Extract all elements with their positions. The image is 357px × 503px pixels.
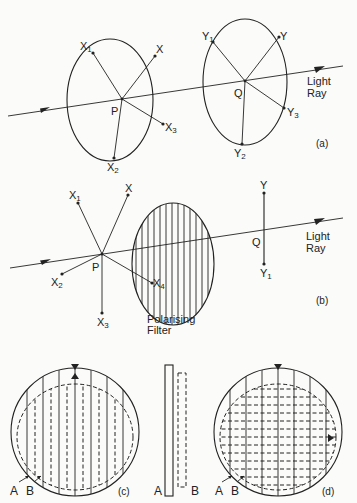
light-ray-label-line2: Ray (307, 87, 327, 99)
wavefront-ellipse-p (67, 39, 153, 161)
light-ray-label-line2-b: Ray (306, 242, 326, 254)
panel-label-c: (c) (118, 486, 130, 497)
filter-a-lines (27, 360, 123, 500)
label-x2: X2 (107, 161, 119, 175)
vibration-vectors-p-b (60, 193, 153, 314)
light-ray-label-line1-b: Light (306, 230, 330, 242)
label-q-b: Q (252, 236, 261, 248)
polarisation-diagram: P Q X X1 X2 X3 Y Y1 Y2 Y3 Light Ray (a) (0, 0, 357, 503)
panel-c: A B (c) (10, 360, 139, 500)
side-marker-b-label: B (191, 484, 199, 498)
label-x1: X1 (80, 40, 92, 54)
ray-arrow-icon (314, 66, 325, 73)
label-y1-b: Y1 (260, 267, 272, 281)
orientation-marker-a-icon (274, 364, 282, 370)
filter-a-edge (165, 365, 173, 496)
filter-a-lines-d (230, 360, 326, 500)
panel-d: A B (d) (214, 360, 342, 500)
label-x2-b: X2 (51, 276, 63, 290)
vibration-vectors-p (91, 51, 164, 159)
label-y: Y (280, 30, 288, 42)
label-y1: Y1 (202, 30, 214, 44)
orientation-marker-b-icon (328, 434, 334, 442)
label-x3-b: X3 (97, 316, 109, 330)
panel-side-view: A B (154, 365, 199, 498)
label-x3: X3 (165, 121, 177, 135)
label-x-b: X (125, 182, 133, 194)
label-y2: Y2 (234, 147, 246, 161)
marker-b-label-d: B (231, 484, 239, 498)
label-y3: Y3 (287, 106, 299, 120)
panel-label-d: (d) (322, 486, 334, 497)
label-y-b: Y (260, 179, 268, 191)
side-marker-a-label: A (154, 484, 162, 498)
label-q: Q (234, 87, 243, 99)
light-ray-b (10, 218, 343, 268)
light-ray-label-line1: Light (307, 75, 331, 87)
vibration-vector-q-b (262, 191, 265, 265)
orientation-marker-a-icon (71, 364, 79, 370)
polarising-filter (132, 200, 214, 330)
marker-a-label: A (10, 484, 18, 498)
panel-label-a: (a) (316, 138, 328, 149)
label-x1-b: X1 (69, 189, 81, 203)
vibration-vectors-q (211, 35, 285, 145)
marker-b-label: B (26, 484, 34, 498)
label-p-b: P (92, 261, 99, 273)
label-p: P (111, 105, 118, 117)
filter-label-line2: Filter (147, 324, 172, 336)
filter-b-edge (178, 373, 186, 487)
panel-a: P Q X X1 X2 X3 Y Y1 Y2 Y3 Light Ray (a) (8, 19, 343, 175)
marker-a-label-d: A (215, 484, 223, 498)
panel-b: P Q X X1 X2 X3 X4 Y Y1 Polarising Filter… (10, 179, 343, 336)
orientation-marker-b-icon (71, 373, 79, 379)
ray-arrow-icon (314, 218, 325, 225)
label-x: X (156, 43, 164, 55)
panel-label-b: (b) (316, 295, 328, 306)
label-x4-b: X4 (153, 277, 165, 291)
